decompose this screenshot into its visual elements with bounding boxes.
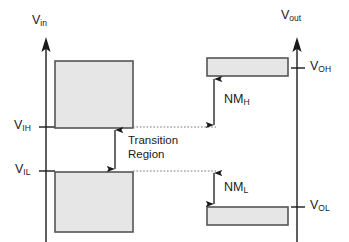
- diagram-canvas: [0, 0, 349, 242]
- transition-region-line-2: Region: [128, 148, 178, 162]
- input-high-box: [55, 61, 133, 128]
- output-high-box: [207, 58, 288, 76]
- nm-high-subscript: H: [243, 97, 249, 107]
- transition-region-label: Transition Region: [128, 134, 178, 161]
- v-il-label: VIL: [15, 163, 30, 176]
- v-ih-label: VIH: [14, 119, 31, 132]
- nm-high-symbol: NM: [224, 92, 243, 106]
- v-oh-subscript: OH: [318, 64, 331, 74]
- output-low-box: [207, 207, 288, 225]
- v-in-axis-label: Vin: [32, 14, 47, 27]
- v-ol-label: VOL: [310, 199, 330, 212]
- nm-low-symbol: NM: [224, 180, 243, 194]
- transition-region-line-1: Transition: [128, 134, 178, 148]
- nm-low-subscript: L: [243, 185, 248, 195]
- v-il-subscript: IL: [23, 167, 30, 177]
- v-ol-subscript: OL: [318, 203, 329, 213]
- v-oh-label: VOH: [310, 60, 331, 73]
- nm-high-label: NMH: [224, 93, 250, 106]
- noise-margin-diagram: Vin Vout VIH VIL VOH VOL NMH NML Transit…: [0, 0, 349, 242]
- v-in-subscript: in: [40, 18, 47, 28]
- v-ih-subscript: IH: [22, 123, 31, 133]
- input-low-box: [55, 172, 133, 232]
- v-out-subscript: out: [289, 13, 301, 23]
- v-out-axis-label: Vout: [281, 9, 301, 22]
- nm-low-label: NML: [224, 181, 248, 194]
